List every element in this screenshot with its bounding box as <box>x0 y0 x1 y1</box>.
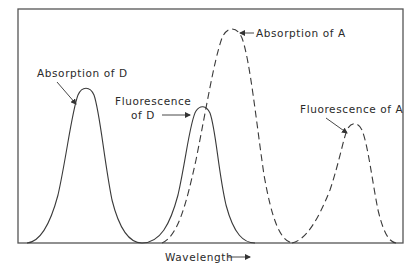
label-absorption-d: Absorption of D <box>37 67 128 79</box>
arrow-absorption-d <box>57 82 76 104</box>
plot-frame <box>18 9 403 243</box>
diagram-canvas: Absorption of D Fluorescence of D Absorp… <box>0 0 417 269</box>
label-absorption-a: Absorption of A <box>256 27 346 39</box>
curve-absorption-a <box>162 29 292 243</box>
curve-fluorescence-d <box>142 107 255 243</box>
x-axis-label: Wavelength <box>165 251 233 263</box>
label-fluorescence-d-line1: Fluorescence <box>115 95 191 107</box>
arrow-fluorescence-a <box>326 118 347 133</box>
curve-absorption-d <box>27 88 142 243</box>
spectral-diagram: Absorption of D Fluorescence of D Absorp… <box>0 0 417 269</box>
label-fluorescence-a: Fluorescence of A <box>300 103 404 115</box>
label-fluorescence-d-line2: of D <box>131 109 155 121</box>
curve-fluorescence-a <box>292 124 397 243</box>
